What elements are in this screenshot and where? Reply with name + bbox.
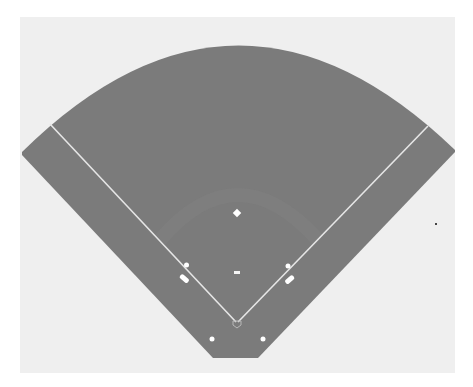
pitchers-rubber <box>234 271 240 274</box>
first-base <box>286 264 291 269</box>
right-on-deck-circle <box>261 337 266 342</box>
baseball-field-diagram <box>0 0 473 387</box>
left-on-deck-circle <box>210 337 215 342</box>
stray-dot <box>435 223 437 225</box>
third-base <box>184 263 189 268</box>
